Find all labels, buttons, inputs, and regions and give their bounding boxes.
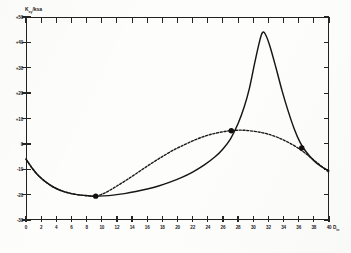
y-tick-label: +20 — [16, 91, 23, 96]
data-point-marker — [299, 145, 304, 150]
x-tick-label: 12 — [115, 225, 120, 230]
x-tick-label: 2 — [40, 225, 42, 230]
y-tick-label: +50 — [16, 15, 23, 20]
x-tick-label: 8 — [85, 225, 87, 230]
y-axis-title-unit: /ksa — [32, 6, 42, 12]
x-axis-unit: Din — [333, 225, 339, 232]
y-tick-label: +30 — [16, 65, 23, 70]
x-tick-label: 10 — [99, 225, 104, 230]
x-tick-label: 26 — [221, 225, 226, 230]
y-axis-title: Kxy/ksa — [25, 6, 42, 14]
x-tick-label: 16 — [145, 225, 150, 230]
x-tick-label: 30 — [251, 225, 256, 230]
x-axis-unit-subscript: in — [336, 227, 339, 231]
x-tick-label: 40 — [327, 225, 332, 230]
y-tick-label: -30 — [17, 218, 23, 223]
y-tick-label: -20 — [17, 192, 23, 197]
data-point-marker — [229, 128, 234, 133]
x-tick-label: 20 — [175, 225, 180, 230]
x-tick-label: 0 — [25, 225, 27, 230]
data-point-marker — [93, 193, 98, 198]
figure-container: Kxy/ksa Din -30-20-100+10+20+30+40+50 02… — [0, 0, 351, 253]
x-tick-label: 6 — [70, 225, 72, 230]
plot-area: -30-20-100+10+20+30+40+50 02468101214161… — [26, 17, 329, 220]
x-tick-label: 36 — [296, 225, 301, 230]
solid-curve — [26, 32, 329, 196]
y-tick-label: +10 — [16, 116, 23, 121]
x-tick-label: 14 — [130, 225, 135, 230]
x-tick-label: 34 — [281, 225, 286, 230]
x-tick-label: 18 — [160, 225, 165, 230]
y-tick-label: 0 — [21, 141, 23, 146]
x-tick-label: 4 — [55, 225, 57, 230]
y-tick-label: -10 — [17, 167, 23, 172]
x-tick-label: 24 — [205, 225, 210, 230]
x-tick-label: 38 — [311, 225, 316, 230]
x-tick-label: 22 — [190, 225, 195, 230]
x-tick-label: 28 — [236, 225, 241, 230]
y-tick-label: +40 — [16, 40, 23, 45]
dashed-curve — [26, 130, 329, 196]
x-tick-label: 32 — [266, 225, 271, 230]
chart-curves — [26, 17, 329, 220]
